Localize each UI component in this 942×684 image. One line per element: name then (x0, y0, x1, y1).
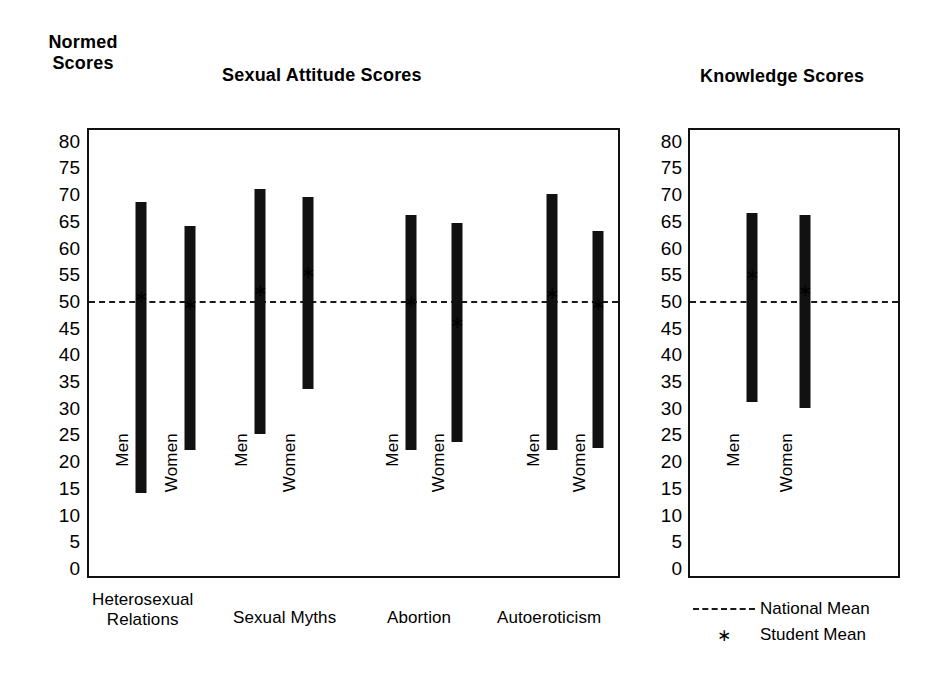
y-tick-label: 15 (59, 478, 80, 497)
range-bar (800, 215, 811, 407)
y-tick-label: 60 (59, 238, 80, 257)
dashed-line-icon (688, 608, 760, 610)
plot-area-knowledge: ∗Men∗Women (690, 130, 898, 576)
y-axis-ticks-left: 80757065605550454035302520151050 (38, 128, 84, 578)
range-bar (593, 231, 604, 447)
plot-area-attitude: ∗Men∗Women∗Men∗Women∗Men∗Women∗Men∗Women (89, 130, 618, 576)
y-tick-label: 40 (59, 345, 80, 364)
legend-label-national-mean: National Mean (760, 599, 870, 619)
range-bar (452, 223, 463, 442)
series-label-men: Men (524, 433, 544, 467)
y-tick-label: 45 (661, 318, 682, 337)
y-tick-label: 50 (661, 291, 682, 310)
y-tick-label: 25 (59, 425, 80, 444)
range-bar (547, 194, 558, 450)
y-tick-label: 75 (59, 158, 80, 177)
y-tick-label: 45 (59, 318, 80, 337)
national-mean-line (89, 301, 618, 303)
y-tick-label: 50 (59, 291, 80, 310)
category-label: Abortion (387, 608, 451, 628)
range-bar (406, 215, 417, 450)
y-tick-label: 0 (671, 559, 682, 578)
y-tick-label: 70 (661, 185, 682, 204)
panel-title-knowledge: Knowledge Scores (700, 66, 864, 87)
y-tick-label: 0 (69, 559, 80, 578)
y-tick-label: 75 (661, 158, 682, 177)
category-label: Autoeroticism (497, 608, 601, 628)
series-label-women: Women (570, 433, 590, 492)
legend-item-national-mean: National Mean (688, 596, 938, 622)
y-tick-label: 55 (661, 265, 682, 284)
y-tick-label: 20 (661, 452, 682, 471)
series-label-women: Women (429, 433, 449, 492)
y-tick-label: 80 (59, 131, 80, 150)
category-label: Heterosexual Relations (92, 590, 193, 629)
y-tick-label: 40 (661, 345, 682, 364)
y-tick-label: 55 (59, 265, 80, 284)
range-bar (185, 226, 196, 450)
series-label-men: Men (724, 433, 744, 467)
range-bar (255, 189, 266, 435)
asterisk-icon: ∗ (688, 627, 760, 644)
y-tick-label: 35 (59, 372, 80, 391)
y-tick-label: 5 (671, 532, 682, 551)
y-tick-label: 30 (661, 398, 682, 417)
y-axis-title: Normed Scores (28, 32, 138, 74)
y-tick-label: 20 (59, 452, 80, 471)
range-bar (136, 202, 147, 493)
national-mean-line (690, 301, 898, 303)
y-tick-label: 60 (661, 238, 682, 257)
series-label-men: Men (232, 433, 252, 467)
y-tick-label: 5 (69, 532, 80, 551)
y-tick-label: 80 (661, 131, 682, 150)
category-label: Sexual Myths (233, 608, 336, 628)
y-tick-label: 65 (59, 211, 80, 230)
legend-label-student-mean: Student Mean (760, 625, 866, 645)
y-tick-label: 35 (661, 372, 682, 391)
y-tick-label: 15 (661, 478, 682, 497)
y-axis-ticks-right: 80757065605550454035302520151050 (640, 128, 686, 578)
y-tick-label: 70 (59, 185, 80, 204)
legend: National Mean ∗ Student Mean (688, 596, 938, 648)
range-bar (747, 213, 758, 403)
y-tick-label: 30 (59, 398, 80, 417)
range-bar (303, 197, 314, 389)
series-label-men: Men (113, 433, 133, 467)
series-label-women: Women (162, 433, 182, 492)
y-tick-label: 25 (661, 425, 682, 444)
panel-title-attitude: Sexual Attitude Scores (222, 65, 422, 86)
series-label-men: Men (383, 433, 403, 467)
y-tick-label: 10 (59, 505, 80, 524)
series-label-women: Women (280, 433, 300, 492)
legend-item-student-mean: ∗ Student Mean (688, 622, 938, 648)
y-tick-label: 10 (661, 505, 682, 524)
asterisk-glyph: ∗ (717, 627, 731, 644)
series-label-women: Women (777, 433, 797, 492)
y-tick-label: 65 (661, 211, 682, 230)
chart-root: Normed Scores Sexual Attitude Scores Kno… (0, 0, 942, 684)
